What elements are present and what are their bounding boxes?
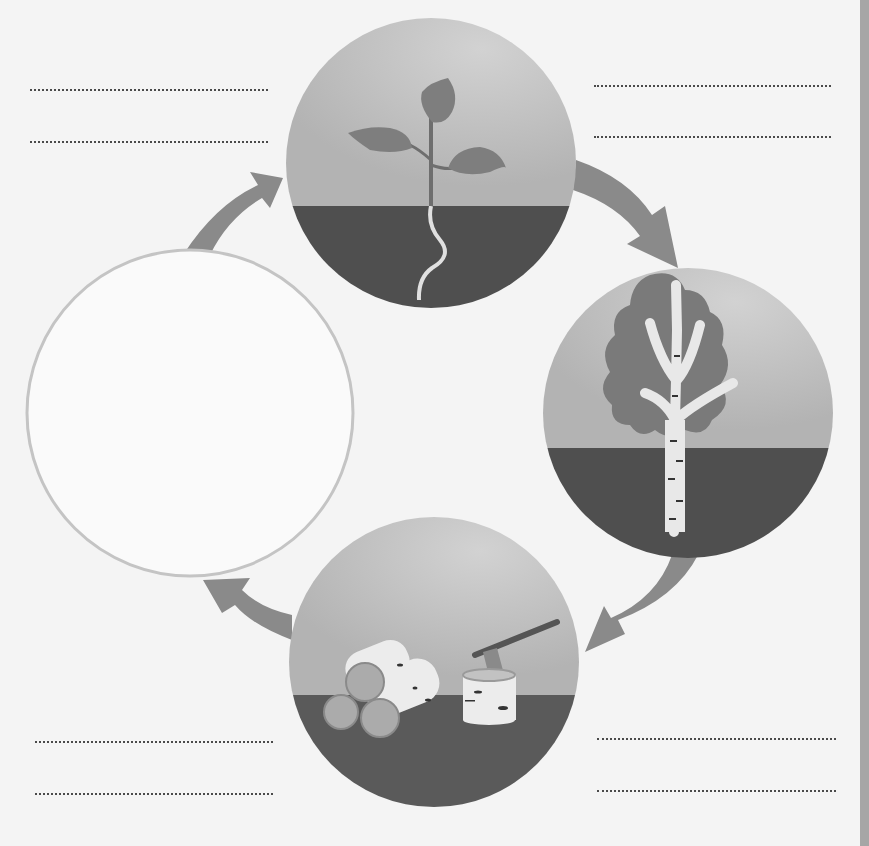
answer-line-bottom-right-1[interactable]	[597, 738, 836, 740]
arrow-blank-to-seedling	[183, 172, 283, 255]
answer-line-bottom-right-2[interactable]	[597, 790, 836, 792]
answer-line-top-left-1[interactable]	[30, 89, 268, 91]
page-edge-bar	[860, 0, 869, 846]
answer-line-top-right-2[interactable]	[594, 136, 831, 138]
arrow-seedling-to-tree	[573, 160, 678, 268]
tree-life-cycle-diagram	[0, 0, 869, 846]
answer-line-top-left-2[interactable]	[30, 141, 268, 143]
arrow-logs-to-blank	[203, 578, 292, 640]
seedling-stage-circle	[280, 10, 590, 316]
blank-stage-circle[interactable]	[27, 250, 353, 576]
answer-line-bottom-left-1[interactable]	[35, 741, 273, 743]
arrow-tree-to-logs	[585, 555, 698, 652]
cycle-diagram-svg	[0, 0, 869, 846]
answer-line-top-right-1[interactable]	[594, 85, 831, 87]
logs-stage-circle	[285, 515, 585, 810]
answer-line-bottom-left-2[interactable]	[35, 793, 273, 795]
